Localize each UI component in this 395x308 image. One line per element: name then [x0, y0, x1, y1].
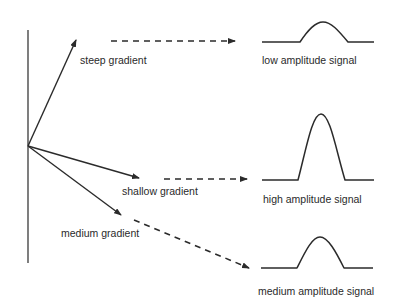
shallow-gradient-label: shallow gradient — [122, 185, 198, 197]
gradient-signal-diagram: steep gradient shallow gradient medium g… — [0, 0, 395, 308]
high-amplitude-signal-wave — [262, 114, 374, 180]
medium-amplitude-signal-wave — [261, 237, 373, 268]
diagram-svg: steep gradient shallow gradient medium g… — [0, 0, 395, 308]
medium-gradient-arrow — [28, 146, 121, 215]
medium-to-medium-dashed-arrow — [134, 220, 249, 268]
steep-gradient-arrow — [28, 40, 76, 146]
medium-gradient-label: medium gradient — [61, 227, 139, 239]
low-amplitude-signal-label: low amplitude signal — [262, 54, 357, 66]
low-amplitude-signal-wave — [262, 22, 374, 42]
steep-gradient-label: steep gradient — [80, 54, 147, 66]
high-amplitude-signal-label: high amplitude signal — [263, 193, 362, 205]
shallow-gradient-arrow — [28, 146, 139, 178]
medium-amplitude-signal-label: medium amplitude signal — [258, 285, 374, 297]
